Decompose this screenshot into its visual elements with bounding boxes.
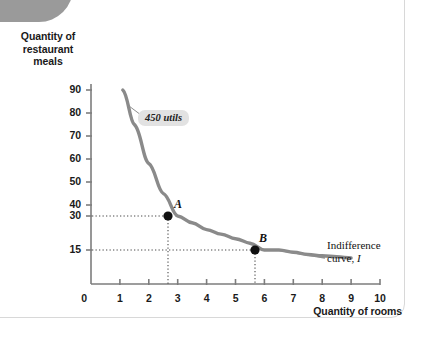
point-b-label: B [259,231,267,246]
y-tick-label-60: 60 [47,152,81,164]
y-tick-label-15: 15 [47,243,81,255]
y-tick-label-70: 70 [47,129,81,141]
figure-container: Quantity of restaurant meals Quantity of… [0,0,427,337]
data-point-a[interactable] [163,211,172,220]
plot-svg [0,0,427,337]
x-tick-label-10: 10 [363,292,397,304]
guide-lines [92,216,255,284]
y-tick-label-40: 40 [47,198,81,210]
curve-annotation-line-2: curve, I [327,252,381,265]
y-tick-label-80: 80 [47,106,81,118]
data-point-b[interactable] [250,245,259,254]
y-tick-label-50: 50 [47,175,81,187]
curve-annotation-line-1: Indifference [327,239,381,252]
chart-canvas: Quantity of restaurant meals Quantity of… [0,0,427,337]
curve-annotation: Indifference curve, I [327,239,381,265]
utils-callout-badge: 450 utils [138,110,189,126]
curve-symbol: I [357,252,361,264]
x-tick-label-0: 0 [67,292,101,304]
point-a-label: A [174,197,182,212]
y-tick-label-30: 30 [47,209,81,221]
y-tick-label-90: 90 [47,83,81,95]
